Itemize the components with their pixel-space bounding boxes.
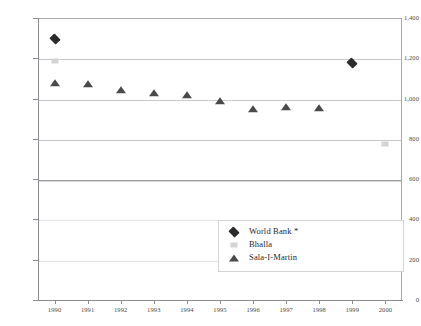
- data-point-marker: [382, 141, 389, 146]
- y-tick-1400: [33, 18, 38, 19]
- y-axis-tick-label: 600: [389, 176, 421, 183]
- data-point-marker: [50, 80, 60, 87]
- x-axis-tick-label: 1990: [48, 307, 61, 314]
- x-tick-1996: [253, 300, 254, 304]
- y-tick-1000: [33, 99, 38, 100]
- legend-item-bhalla: Bhalla: [219, 238, 403, 251]
- x-tick-1997: [286, 300, 287, 304]
- x-axis-tick-label: 1994: [180, 307, 193, 314]
- x-axis-tick-label: 1999: [346, 307, 359, 314]
- y-axis-tick-label: 1,400: [389, 15, 421, 22]
- legend-item-label: Sala-I-Martin: [249, 253, 297, 262]
- data-point-marker: [149, 89, 159, 96]
- data-point-marker: [215, 97, 225, 104]
- x-tick-1998: [319, 300, 320, 304]
- square-marker-icon: [219, 238, 249, 251]
- y-tick-800: [33, 139, 38, 140]
- y-tick-600: [33, 179, 38, 180]
- y-axis-tick-label: 1,000: [389, 95, 421, 102]
- data-point-marker: [281, 103, 291, 110]
- y-tick-0: [33, 300, 38, 301]
- x-tick-1991: [88, 300, 89, 304]
- y-axis-tick-label: 1,200: [389, 55, 421, 62]
- data-point-marker: [182, 91, 192, 98]
- data-point-marker: [314, 104, 324, 111]
- y-tick-400: [33, 219, 38, 220]
- x-axis-tick-label: 1995: [213, 307, 226, 314]
- x-tick-1993: [154, 300, 155, 304]
- y-axis-tick-label: 0: [389, 297, 421, 304]
- x-axis-tick-label: 1997: [279, 307, 292, 314]
- x-axis-tick-label: 1993: [147, 307, 160, 314]
- x-axis-tick-label: 1991: [81, 307, 94, 314]
- data-point-marker: [51, 59, 58, 64]
- gridline-800: [38, 140, 401, 141]
- data-point-marker: [49, 33, 60, 44]
- gridline-600: [38, 180, 401, 181]
- legend-item-world-bank: World Bank *: [219, 225, 403, 238]
- x-axis-tick-label: 2000: [379, 307, 392, 314]
- gridline-1400: [38, 19, 401, 20]
- y-axis-line: [38, 18, 39, 301]
- data-point-marker: [116, 86, 126, 93]
- legend-item-label: World Bank *: [249, 227, 298, 236]
- x-axis-tick-label: 1998: [313, 307, 326, 314]
- y-tick-1200: [33, 58, 38, 59]
- x-tick-1994: [187, 300, 188, 304]
- legend-item-label: Bhalla: [249, 240, 272, 249]
- x-tick-2000: [385, 300, 386, 304]
- chart-figure: 02004006008001,0001,2001,400 19901991199…: [0, 0, 421, 326]
- diamond-marker-icon: [219, 225, 249, 238]
- legend-item-sala-i-martin: Sala-I-Martin: [219, 251, 403, 264]
- chart-legend: World Bank * Bhalla Sala-I-Martin: [218, 220, 404, 272]
- data-point-marker: [83, 81, 93, 88]
- triangle-marker-icon: [219, 251, 249, 264]
- y-tick-200: [33, 260, 38, 261]
- y-axis-tick-label: 800: [389, 136, 421, 143]
- x-axis-tick-label: 1992: [114, 307, 127, 314]
- x-axis-tick-label: 1996: [246, 307, 259, 314]
- x-tick-1992: [121, 300, 122, 304]
- data-point-marker: [248, 105, 258, 112]
- x-tick-1999: [352, 300, 353, 304]
- x-tick-1990: [55, 300, 56, 304]
- x-tick-1995: [220, 300, 221, 304]
